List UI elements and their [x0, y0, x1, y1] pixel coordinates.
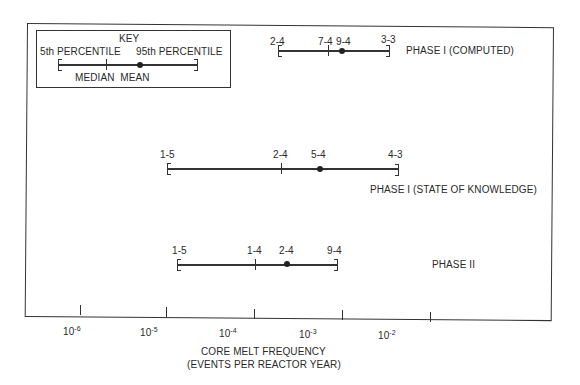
x-tick-label-1e-2: 10-2: [378, 331, 396, 341]
legend-mean-dot: [137, 62, 143, 68]
row2-median-tick: [281, 163, 282, 174]
row3-p5-value: 1-5: [172, 246, 187, 256]
row3-median-value: 1-4: [247, 246, 262, 256]
row1-right-bracket: [386, 45, 390, 57]
x-tick-1e-4: [254, 309, 255, 319]
row3-p95-value: 9-4: [327, 246, 342, 256]
row3-mean-value: 2-4: [279, 246, 294, 256]
x-tick-1e-6: [80, 305, 81, 315]
row2-p95-value: 4-3: [388, 150, 403, 160]
x-tick-label-1e-3: 10-3: [299, 330, 317, 340]
x-axis-subtitle: (EVENTS PER REACTOR YEAR): [187, 360, 341, 370]
row2-bar: [168, 168, 398, 170]
row2-label: PHASE I (STATE OF KNOWLEDGE): [370, 185, 537, 195]
legend-5th-percentile-label: 5th PERCENTILE: [40, 47, 121, 57]
row1-mean-value: 9-4: [336, 37, 351, 47]
row2-right-bracket: [395, 164, 399, 176]
x-tick-label-1e-5: 10-5: [140, 328, 158, 338]
x-tick-label-1e-6: 10-6: [63, 327, 81, 337]
row2-mean-value: 5-4: [311, 150, 326, 160]
row1-label: PHASE I (COMPUTED): [406, 46, 514, 56]
x-tick-1e-2: [430, 312, 431, 322]
x-tick-1e-3: [342, 310, 343, 320]
row3-bar: [178, 264, 337, 266]
row3-median-tick: [255, 259, 256, 270]
x-tick-label-1e-4: 10-4: [219, 329, 237, 339]
row2-p5-value: 1-5: [160, 150, 175, 160]
row1-median-value: 7-4: [318, 37, 333, 47]
row2-median-value: 2-4: [273, 150, 288, 160]
row3-label: PHASE II: [432, 260, 475, 270]
legend-title: KEY: [119, 34, 139, 44]
row3-right-bracket: [334, 259, 338, 271]
legend-right-bracket: [194, 59, 198, 71]
x-axis-title: CORE MELT FREQUENCY: [201, 347, 326, 357]
row2-mean-dot: [317, 166, 323, 172]
row1-mean-dot: [339, 48, 345, 54]
legend-median-mean-label: MEDIAN MEAN: [75, 73, 150, 83]
legend-95th-percentile-label: 95th PERCENTILE: [136, 47, 223, 57]
row1-median-tick: [328, 45, 329, 56]
row1-bar: [279, 50, 389, 52]
row1-p95-value: 3-3: [381, 35, 396, 45]
row3-mean-dot: [284, 261, 290, 267]
x-tick-1e-5: [166, 307, 167, 317]
legend-bar: [59, 64, 197, 66]
legend-median-tick: [106, 59, 107, 70]
